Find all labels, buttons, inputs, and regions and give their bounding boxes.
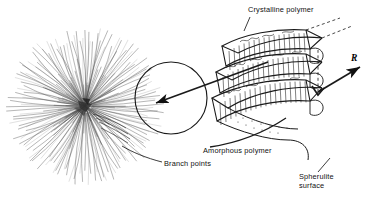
label-spherulite-surface-line2: surface: [299, 181, 324, 190]
label-crystalline-polymer: Crystalline polymer: [248, 5, 314, 14]
amorphous-chains-top: [240, 31, 294, 42]
lamellar-inset: [212, 18, 352, 160]
lamella-layer-top: [222, 30, 322, 70]
label-spherulite-surface-line1: Spherulite: [299, 172, 334, 181]
label-branch-points: Branch points: [164, 159, 211, 168]
amorphous-blobs-right: [310, 48, 323, 115]
leader-spherulite-surface: [318, 158, 330, 172]
label-amorphous-polymer: Amorphous polymer: [203, 146, 272, 155]
leader-branch-points: [122, 146, 162, 162]
dashed-guides: [306, 18, 352, 92]
leader-crystalline: [244, 17, 250, 31]
label-radius-r: R: [351, 53, 357, 63]
radius-arrow: [318, 67, 360, 92]
spherulite-figure: Crystalline polymer Amorphous polymer Br…: [0, 0, 381, 222]
